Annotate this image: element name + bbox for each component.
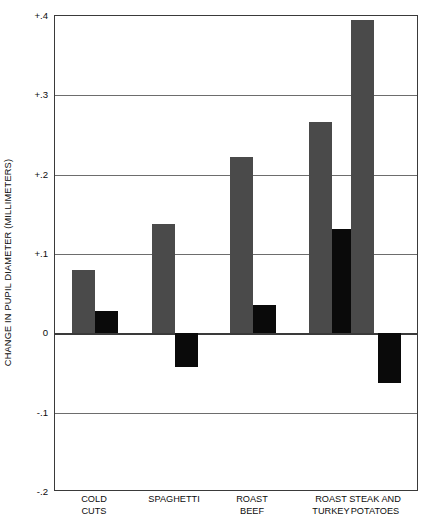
- bar: [253, 305, 276, 334]
- bar: [351, 20, 374, 333]
- x-axis-tick-label-line: COLD: [81, 494, 107, 506]
- y-axis-tick-label: -.2: [37, 486, 48, 497]
- plot-area: [54, 15, 418, 491]
- x-axis-tick-label-line: ROAST: [236, 494, 268, 506]
- x-axis-tick-label-line: TURKEY: [312, 506, 349, 518]
- x-axis-tick-label: COLDCUTS: [81, 494, 107, 517]
- bar: [95, 311, 118, 333]
- x-axis-tick-label: ROASTBEEF: [236, 494, 268, 517]
- y-axis-tick-label: 0: [43, 327, 48, 338]
- x-axis-tick-label-line: ROAST: [312, 494, 349, 506]
- x-axis-tick-label: ROASTTURKEY: [312, 494, 349, 517]
- x-axis-tick-label-line: POTATOES: [349, 506, 401, 518]
- y-axis-tick-label: +.3: [34, 89, 48, 100]
- x-axis-tick-labels: COLDCUTSSPAGHETTIROASTBEEFROASTTURKEYSTE…: [54, 494, 418, 525]
- bar: [175, 333, 198, 367]
- bar: [309, 122, 332, 333]
- y-axis-tick-label: +.2: [34, 168, 48, 179]
- bar: [378, 333, 401, 382]
- bar: [72, 270, 95, 333]
- y-axis-tick-label: +.4: [34, 10, 48, 21]
- y-axis-tick-labels: +.4+.3+.2+.10-.1-.2: [0, 0, 52, 525]
- plot-inner: [55, 16, 417, 490]
- y-axis-tick-label: -.1: [37, 406, 48, 417]
- x-axis-tick-label-line: CUTS: [81, 506, 107, 518]
- x-axis-tick-label-line: BEEF: [236, 506, 268, 518]
- bar: [152, 224, 175, 333]
- gridline: [55, 413, 417, 414]
- x-axis-tick-label: STEAK ANDPOTATOES: [349, 494, 401, 517]
- y-axis-tick-label: +.1: [34, 248, 48, 259]
- zero-gridline: [55, 333, 417, 335]
- x-axis-tick-label-line: SPAGHETTI: [148, 494, 199, 506]
- x-axis-tick-label: SPAGHETTI: [148, 494, 199, 506]
- x-axis-tick-label-line: STEAK AND: [349, 494, 401, 506]
- chart-root: CHANGE IN PUPIL DIAMETER (MILLIMETERS) +…: [0, 0, 437, 525]
- bar: [230, 157, 253, 333]
